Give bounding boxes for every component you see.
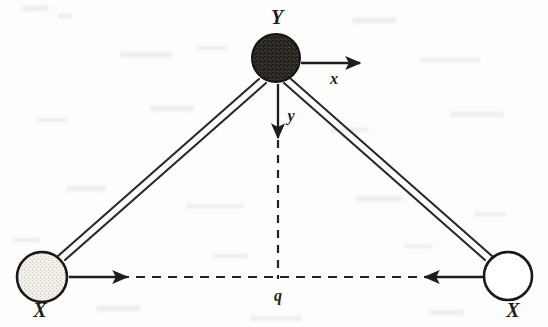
label-atom-apex-y: Y — [271, 6, 285, 28]
construction-line-group — [72, 140, 482, 279]
atom-circle-left-x — [17, 252, 67, 302]
label-atom-left-x: X — [32, 299, 47, 321]
label-coordinate-q: q — [274, 287, 282, 305]
molecule-diagram: Y X X x y q — [0, 0, 548, 327]
bond-y-right — [284, 79, 492, 260]
figure-canvas: Y X X x y q — [0, 0, 548, 327]
label-atom-right-x: X — [505, 299, 520, 321]
label-vector-y: y — [285, 107, 295, 125]
atom-circle-right-x — [484, 252, 532, 300]
label-vector-x: x — [329, 70, 338, 87]
atom-circle-apex-y — [252, 34, 300, 82]
atom-group — [17, 34, 532, 302]
bond-group — [58, 79, 492, 260]
